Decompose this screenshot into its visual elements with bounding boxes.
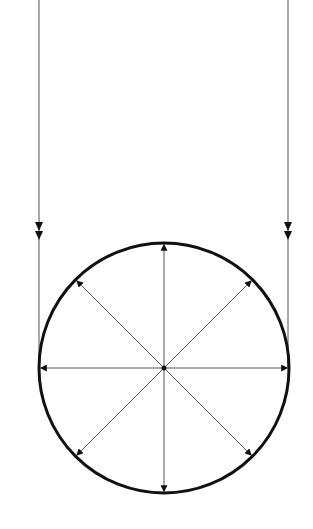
radial-arrow-135deg xyxy=(77,281,164,368)
radial-arrow-315deg xyxy=(164,368,251,455)
radial-arrow-45deg xyxy=(164,281,251,368)
radial-arrow-225deg xyxy=(77,368,164,455)
center-point xyxy=(162,366,167,371)
down-arrowhead-icon xyxy=(35,231,43,240)
down-arrowhead-icon xyxy=(35,222,43,231)
down-arrowhead-icon xyxy=(284,222,292,231)
down-arrowhead-icon xyxy=(284,231,292,240)
circle-radial-force-diagram xyxy=(0,0,313,529)
